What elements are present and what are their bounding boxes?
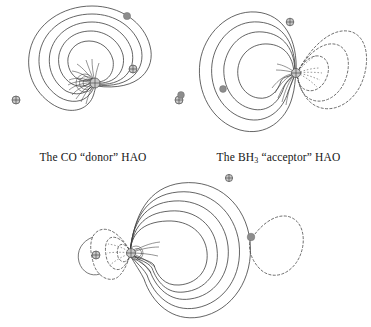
caption-bh3-subscript: 3 <box>254 156 258 165</box>
nucleus-right-icon <box>129 65 137 73</box>
nucleus-inner-left-icon <box>220 86 227 93</box>
caption-bh3-suffix: HAO <box>312 151 340 163</box>
nucleus-outer-left-icon <box>178 92 185 99</box>
combined-positive-contours <box>130 183 250 318</box>
nucleus-primary-icon <box>292 69 301 78</box>
nucleus-left-icon <box>12 96 20 104</box>
nucleus-upper-right-icon <box>225 174 232 181</box>
caption-co-text: The CO “donor” HAO <box>39 151 146 163</box>
panel-co-donor <box>0 0 185 148</box>
nucleus-upper-icon <box>286 18 294 26</box>
panel-bh3-acceptor <box>186 0 371 148</box>
caption-bh3-acceptor: The BH3 “acceptor” HAO <box>186 151 371 163</box>
caption-co-donor: The CO “donor” HAO <box>0 151 186 163</box>
bh3-positive-contours <box>199 12 296 132</box>
nucleus-right-icon <box>247 233 255 241</box>
caption-bh3-prefix: The BH <box>217 151 255 163</box>
caption-bh3-quoted: “acceptor” <box>261 151 312 163</box>
nucleus-upper-right-icon <box>123 12 130 19</box>
combined-negative-contours <box>91 216 304 279</box>
nucleus-center-icon <box>127 249 136 258</box>
nucleus-left-icon <box>92 251 100 259</box>
panel-combined-interaction <box>60 175 320 327</box>
caption-bh3-quoted-wrap: “acceptor” <box>258 151 312 163</box>
nucleus-primary-icon <box>90 78 100 88</box>
combined-nuclei <box>92 174 255 259</box>
bh3-nuclei <box>178 18 301 98</box>
orbital-figure: The CO “donor” HAO The BH3 “acceptor” HA… <box>0 0 371 327</box>
co-positive-contours <box>29 6 152 110</box>
